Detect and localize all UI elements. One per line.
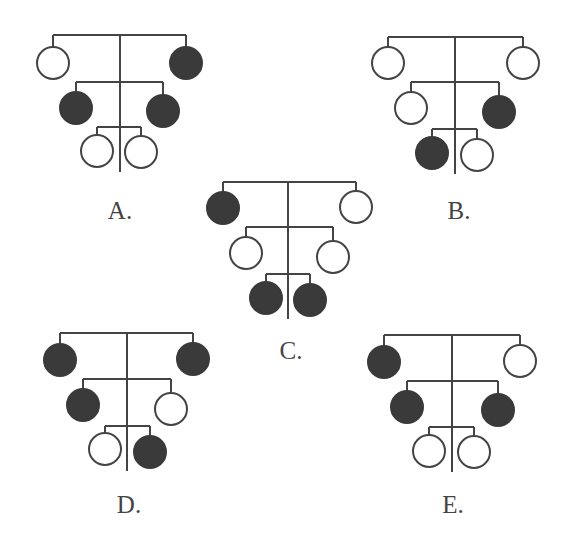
affected-female-icon (368, 346, 400, 378)
unaffected-female-icon (155, 393, 187, 425)
affected-female-icon (67, 389, 99, 421)
pedigree-figure (0, 0, 576, 551)
affected-female-icon (134, 436, 166, 468)
unaffected-female-icon (230, 237, 262, 269)
affected-female-icon (44, 344, 76, 376)
pedigree-a (37, 35, 202, 172)
affected-female-icon (177, 343, 209, 375)
unaffected-female-icon (507, 47, 539, 79)
affected-female-icon (391, 391, 423, 423)
affected-female-icon (60, 92, 92, 124)
unaffected-female-icon (125, 136, 157, 168)
unaffected-female-icon (458, 436, 490, 468)
pedigree-c (207, 182, 372, 319)
unaffected-female-icon (37, 47, 69, 79)
pedigree-label: C. (280, 338, 303, 363)
unaffected-female-icon (413, 435, 445, 467)
affected-female-icon (482, 394, 514, 426)
affected-female-icon (483, 96, 515, 128)
unaffected-female-icon (81, 135, 113, 167)
unaffected-female-icon (340, 191, 372, 223)
affected-female-icon (207, 192, 239, 224)
unaffected-female-icon (504, 345, 536, 377)
unaffected-female-icon (461, 139, 493, 171)
pedigree-label: A. (108, 198, 132, 223)
pedigree-label: E. (442, 492, 464, 517)
affected-female-icon (294, 284, 326, 316)
pedigree-d (44, 333, 209, 471)
unaffected-female-icon (89, 433, 121, 465)
affected-female-icon (250, 282, 282, 314)
affected-female-icon (147, 95, 179, 127)
unaffected-female-icon (372, 47, 404, 79)
pedigree-label: D. (117, 492, 141, 517)
unaffected-female-icon (395, 92, 427, 124)
pedigree-b (372, 37, 539, 174)
pedigree-e (368, 335, 536, 472)
unaffected-female-icon (317, 241, 349, 273)
affected-female-icon (170, 47, 202, 79)
affected-female-icon (416, 137, 448, 169)
pedigree-label: B. (448, 198, 471, 223)
